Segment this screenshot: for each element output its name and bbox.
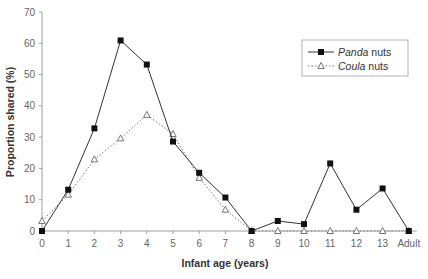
triangle-marker bbox=[91, 156, 97, 162]
y-axis-title: Proportion shared (%) bbox=[4, 67, 16, 177]
x-tick-label: Adult bbox=[397, 238, 420, 249]
x-tick-label: 10 bbox=[298, 238, 310, 249]
line-chart: 010203040506070 012345678910111213Adult … bbox=[0, 0, 428, 279]
y-axis: 010203040506070 bbox=[24, 7, 42, 237]
x-tick-label: 6 bbox=[196, 238, 202, 249]
square-marker bbox=[222, 195, 228, 201]
square-marker bbox=[196, 170, 202, 176]
y-tick-label: 10 bbox=[24, 194, 36, 205]
square-marker bbox=[406, 228, 412, 234]
x-tick-label: 4 bbox=[144, 238, 150, 249]
square-marker bbox=[65, 187, 71, 193]
square-marker bbox=[91, 125, 97, 131]
x-tick-label: 0 bbox=[39, 238, 45, 249]
x-tick-label: 5 bbox=[170, 238, 176, 249]
y-tick-label: 20 bbox=[24, 163, 36, 174]
x-tick-label: 7 bbox=[223, 238, 229, 249]
triangle-marker bbox=[117, 135, 123, 141]
square-marker bbox=[275, 218, 281, 224]
square-marker bbox=[353, 207, 359, 213]
y-tick-label: 60 bbox=[24, 38, 36, 49]
y-tick-label: 30 bbox=[24, 132, 36, 143]
x-tick-label: 3 bbox=[118, 238, 124, 249]
square-marker bbox=[249, 228, 255, 234]
y-tick-label: 70 bbox=[24, 7, 36, 18]
square-marker bbox=[118, 37, 124, 43]
square-marker bbox=[39, 228, 45, 234]
square-marker bbox=[170, 139, 176, 145]
x-tick-label: 1 bbox=[65, 238, 71, 249]
x-tick-label: 9 bbox=[275, 238, 281, 249]
legend-label: Panda nuts bbox=[338, 46, 391, 58]
x-axis: 012345678910111213Adult bbox=[39, 231, 420, 249]
x-tick-label: 12 bbox=[351, 238, 363, 249]
square-marker bbox=[318, 49, 324, 55]
triangle-marker bbox=[39, 217, 45, 223]
square-marker bbox=[327, 160, 333, 166]
triangle-marker bbox=[222, 206, 228, 212]
x-tick-label: 13 bbox=[377, 238, 389, 249]
x-tick-label: 11 bbox=[325, 238, 336, 249]
y-tick-label: 40 bbox=[24, 100, 36, 111]
triangle-marker bbox=[144, 111, 150, 117]
legend-label: Coula nuts bbox=[338, 60, 388, 72]
x-tick-label: 2 bbox=[92, 238, 98, 249]
x-axis-title: Infant age (years) bbox=[182, 257, 269, 269]
square-marker bbox=[301, 221, 307, 227]
x-tick-label: 8 bbox=[249, 238, 255, 249]
y-tick-label: 0 bbox=[29, 226, 35, 237]
legend: Panda nutsCoula nuts bbox=[302, 40, 408, 76]
square-marker bbox=[144, 62, 150, 68]
y-tick-label: 50 bbox=[24, 69, 36, 80]
square-marker bbox=[380, 185, 386, 191]
